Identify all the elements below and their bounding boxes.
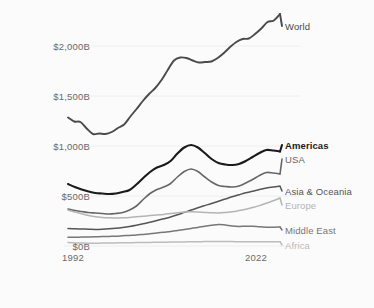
- series-line-europe: [68, 198, 280, 218]
- y-axis-tick-0: $2,000B: [18, 41, 90, 52]
- series-paths-group: [68, 14, 280, 243]
- series-label-europe: Europe: [285, 200, 316, 211]
- y-axis-tick-4: $0B: [18, 241, 90, 252]
- series-label-world: World: [285, 21, 310, 32]
- gridlines-group: [64, 46, 300, 246]
- leader-line-world: [280, 14, 282, 26]
- leader-line-africa: [280, 242, 282, 245]
- series-line-world: [68, 14, 280, 134]
- y-axis-tick-2: $1,000B: [18, 141, 90, 152]
- series-line-africa: [68, 241, 280, 243]
- series-label-africa: Africa: [285, 240, 310, 251]
- x-axis-tick-start: 1992: [62, 252, 84, 263]
- leader-line-usa: [280, 159, 282, 174]
- chart-plot-area: $2,000B $1,500B $1,000B $500B $0B 1992 2…: [0, 0, 374, 268]
- leader-line-asia-oceania: [280, 186, 282, 191]
- x-axis-tick-end: 2022: [245, 252, 267, 263]
- series-label-asia-oceania: Asia & Oceania: [285, 186, 352, 197]
- y-axis-tick-3: $500B: [18, 191, 90, 202]
- leader-line-europe: [280, 198, 282, 205]
- series-label-middle-east: Middle East: [285, 225, 336, 236]
- series-label-americas: Americas: [285, 140, 329, 151]
- series-line-middle-east: [68, 224, 280, 237]
- chart-screenshot: $2,000B $1,500B $1,000B $500B $0B 1992 2…: [0, 0, 374, 308]
- chart-footer: SOURCE: SIPRI The Daily Shot® CREATED WI…: [0, 268, 374, 308]
- series-line-americas: [68, 145, 280, 194]
- y-axis-tick-1: $1,500B: [18, 91, 90, 102]
- leader-lines-group: [280, 14, 282, 245]
- leader-line-middle-east: [280, 227, 282, 230]
- series-label-usa: USA: [285, 154, 305, 165]
